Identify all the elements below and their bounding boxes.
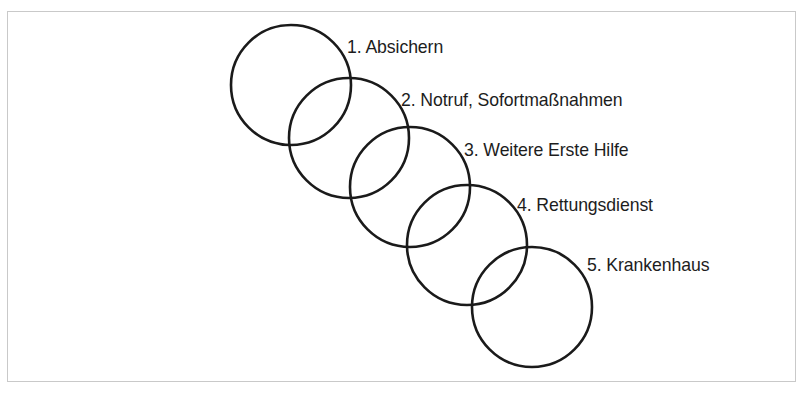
chain-circles-diagram (0, 0, 811, 393)
step-label-4: 4. Rettungsdienst (517, 195, 653, 214)
step-circle-5 (472, 247, 592, 367)
step-label-5: 5. Krankenhaus (587, 255, 709, 274)
rescue-chain-figure: 1. Absichern 2. Notruf, Sofortmaßnahmen … (0, 0, 811, 393)
step-label-1: 1. Absichern (347, 37, 443, 56)
step-label-2: 2. Notruf, Sofortmaßnahmen (401, 90, 623, 109)
step-label-3: 3. Weitere Erste Hilfe (464, 140, 629, 159)
